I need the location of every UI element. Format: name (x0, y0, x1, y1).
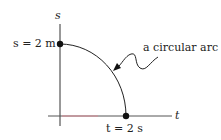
end-point-label: t = 2 s (106, 123, 143, 134)
annotation-arrow (116, 54, 158, 69)
t-axis-label: t (175, 110, 179, 121)
arrowhead-icon (113, 63, 121, 71)
s-axis-label: s (55, 10, 61, 21)
diagram-canvas: s t s = 2 m t = 2 s a circular arc (0, 0, 221, 140)
end-point-dot (123, 113, 129, 119)
circular-arc-curve (60, 44, 126, 116)
diagram-graphics (0, 0, 221, 140)
start-point-dot (57, 41, 63, 47)
arc-annotation-label: a circular arc (143, 42, 218, 53)
start-point-label: s = 2 m (13, 38, 56, 49)
